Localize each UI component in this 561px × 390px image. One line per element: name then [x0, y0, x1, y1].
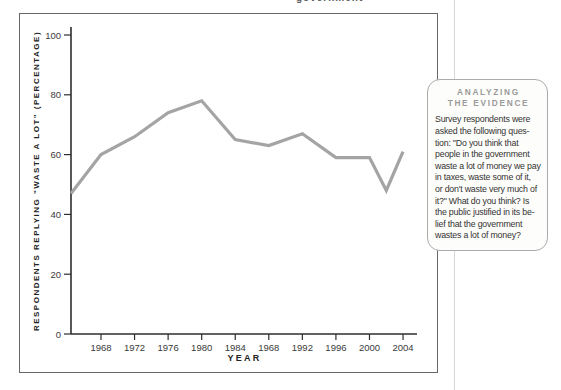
x-axis-label: YEAR — [72, 353, 417, 363]
x-tick-label: 1968 — [90, 342, 111, 353]
y-tick-label: 100 — [45, 30, 61, 41]
figure-frame: RESPONDENTS REPLYING "WASTE A LOT" (PERC… — [19, 13, 438, 373]
x-tick-label: 1968 — [258, 342, 279, 353]
data-line — [71, 101, 403, 194]
evidence-box-header: ANALYZING THE EVIDENCE — [435, 87, 542, 109]
y-tick-label: 0 — [56, 329, 61, 340]
x-tick-label: 1980 — [191, 342, 212, 353]
y-tick-label: 20 — [50, 269, 61, 280]
x-tick-label: 2000 — [359, 342, 380, 353]
y-tick-label: 80 — [50, 89, 61, 100]
x-tick-label: 1976 — [158, 342, 179, 353]
evidence-box-body: Survey respondents were asked the follow… — [435, 114, 542, 242]
y-tick-label: 60 — [50, 149, 61, 160]
x-tick-label: 2004 — [392, 342, 413, 353]
x-tick-label: 1992 — [292, 342, 313, 353]
x-tick-label: 1972 — [124, 342, 145, 353]
y-tick-label: 40 — [50, 209, 61, 220]
line-chart: 0204060801001968197219761980198419681992… — [20, 14, 434, 369]
analyzing-evidence-box: ANALYZING THE EVIDENCE Survey respondent… — [427, 79, 548, 251]
page-header-fragment: government — [296, 0, 406, 4]
x-tick-label: 1984 — [225, 342, 246, 353]
x-tick-label: 1996 — [325, 342, 346, 353]
